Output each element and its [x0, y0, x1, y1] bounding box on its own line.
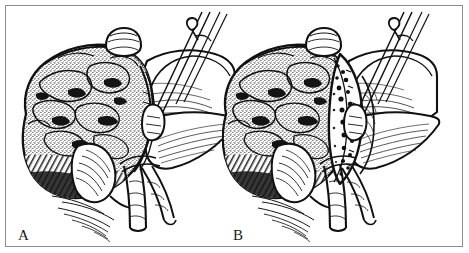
figure-container: A B: [0, 0, 469, 253]
figure-frame: A B: [5, 5, 463, 247]
panel-b: [222, 6, 451, 248]
panel-b-drawing: [222, 6, 451, 248]
suprahepatic-cuff: [306, 28, 341, 56]
connective-tissue-shading: [52, 196, 114, 242]
panel-a: [6, 6, 235, 248]
panel-label-a: A: [18, 227, 29, 244]
connective-tissue-shading: [252, 196, 314, 242]
panel-label-b: B: [233, 227, 244, 244]
panel-a-drawing: [6, 6, 235, 248]
suprahepatic-cuff: [106, 28, 141, 56]
